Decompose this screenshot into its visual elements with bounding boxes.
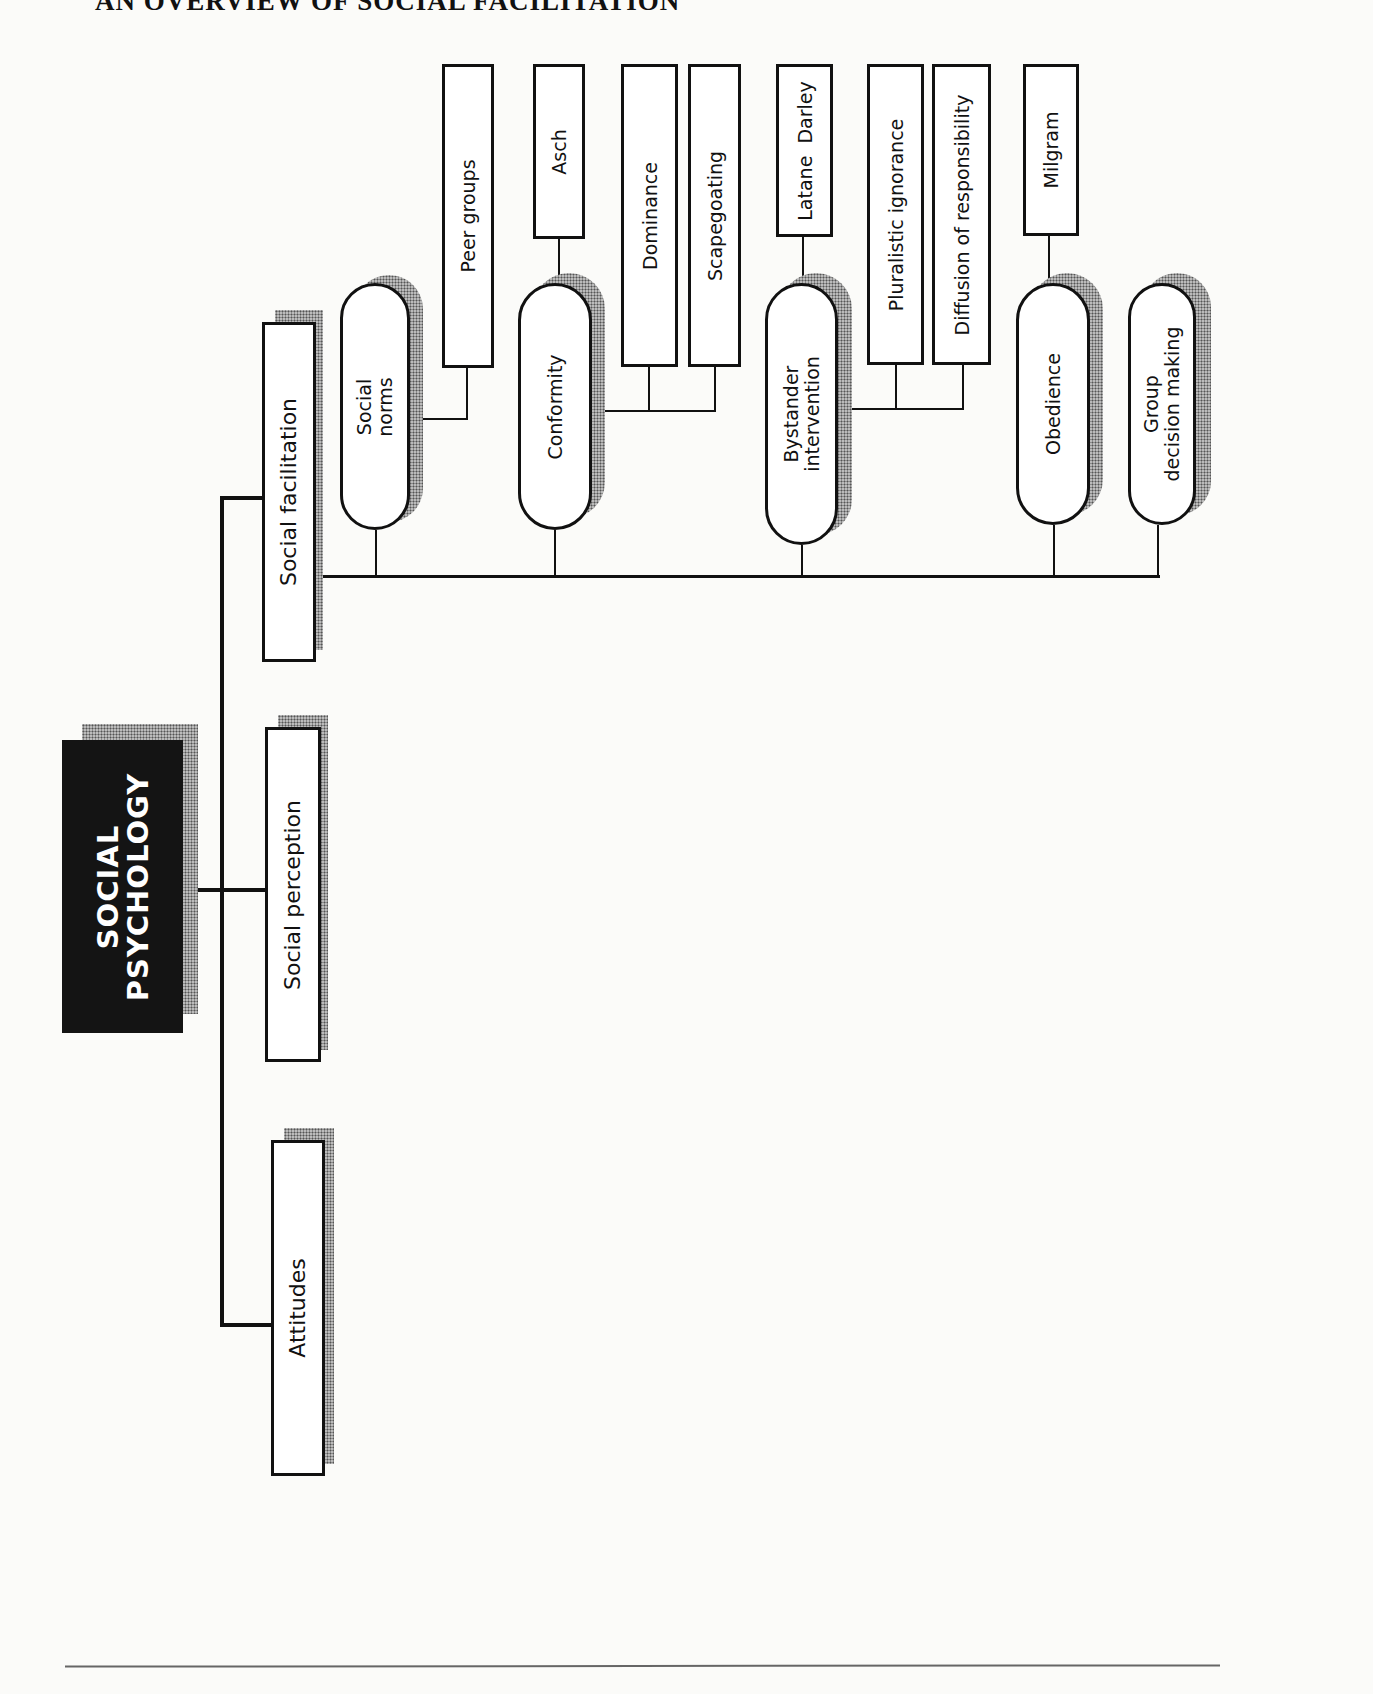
connector-main-trunk — [220, 496, 224, 1327]
bottom-rule-divider — [65, 1664, 1220, 1667]
root-label-line2: PSYCHOLOGY — [123, 772, 153, 1001]
node-asch: Asch — [533, 64, 585, 239]
obedience-label: Obedience — [1043, 353, 1064, 455]
dominance-label: Dominance — [639, 162, 660, 270]
social-norms-label-line2: norms — [375, 377, 396, 437]
connector-trunk-social-facilitation — [220, 496, 264, 500]
bystander-label-line1: Bystander — [781, 356, 802, 472]
connector-conformity-dominance — [648, 366, 650, 412]
social-norms-label-line1: Social — [354, 377, 375, 437]
node-latane-darley: Latane Darley — [776, 64, 833, 237]
page-title: AN OVERVIEW OF SOCIAL FACILITATION — [95, 0, 680, 17]
node-conformity: Conformity — [518, 283, 592, 530]
bystander-label-line2: intervention — [802, 356, 823, 472]
node-social-perception: Social perception — [265, 727, 321, 1062]
connector-level2-bus — [316, 575, 1160, 578]
connector-bystander-pluralistic — [895, 364, 897, 410]
node-social-norms: Social norms — [340, 283, 410, 530]
node-diffusion-of-responsibility: Diffusion of responsibility — [932, 64, 991, 365]
node-attitudes: Attitudes — [271, 1140, 325, 1476]
node-peer-groups: Peer groups — [442, 64, 494, 368]
connector-conformity-scapegoating — [714, 366, 716, 412]
milgram-label: Milgram — [1041, 112, 1062, 189]
social-norms-label: Social norms — [354, 377, 396, 437]
bystander-label: Bystander intervention — [781, 356, 823, 472]
connector-trunk-attitudes — [220, 1323, 272, 1327]
connector-social-norms-peer-groups-v — [466, 367, 468, 420]
diffusion-label: Diffusion of responsibility — [951, 94, 972, 335]
connector-obedience-milgram — [1048, 235, 1050, 283]
connector-conformity-right — [592, 410, 716, 412]
connector-bystander-diffusion — [962, 364, 964, 410]
root-label: SOCIAL PSYCHOLOGY — [93, 772, 153, 1001]
group-decision-label-line1: Group — [1141, 327, 1162, 482]
root-label-line1: SOCIAL — [93, 772, 123, 1001]
node-pluralistic-ignorance: Pluralistic ignorance — [867, 64, 924, 365]
node-bystander-intervention: Bystander intervention — [765, 283, 838, 545]
group-decision-label-line2: decision making — [1162, 327, 1183, 482]
node-dominance: Dominance — [621, 64, 678, 367]
attitudes-label: Attitudes — [286, 1258, 310, 1358]
node-group-decision-making: Group decision making — [1128, 283, 1196, 525]
connector-bus-obedience — [1053, 525, 1055, 577]
connector-bus-group-decision — [1157, 525, 1159, 577]
group-decision-label: Group decision making — [1141, 327, 1183, 482]
node-social-facilitation: Social facilitation — [262, 322, 316, 662]
node-milgram: Milgram — [1023, 64, 1079, 236]
connector-bus-bystander — [801, 545, 803, 577]
root-node-social-psychology: SOCIAL PSYCHOLOGY — [62, 740, 183, 1033]
peer-groups-label: Peer groups — [458, 159, 479, 272]
social-perception-label: Social perception — [281, 799, 305, 989]
node-obedience: Obedience — [1016, 283, 1090, 525]
asch-label: Asch — [549, 129, 570, 174]
connector-bus-conformity — [554, 530, 556, 577]
latane-darley-label: Latane Darley — [794, 81, 815, 220]
node-scapegoating: Scapegoating — [688, 64, 741, 367]
scapegoating-label: Scapegoating — [704, 150, 725, 280]
connector-bystander-right — [838, 408, 964, 410]
pluralistic-ignorance-label: Pluralistic ignorance — [885, 118, 906, 311]
social-facilitation-label: Social facilitation — [277, 398, 301, 586]
conformity-label: Conformity — [545, 354, 566, 459]
connector-bus-social-norms — [375, 530, 377, 577]
